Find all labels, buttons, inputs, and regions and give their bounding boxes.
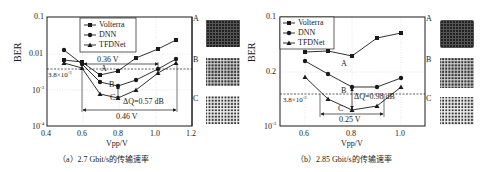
panel-b-xlabel: Vpp/V bbox=[341, 139, 363, 148]
panel-a-xtick-1: 0.6 bbox=[77, 129, 87, 138]
panel-a-threshold-label: 3.8×10-3 bbox=[48, 70, 71, 79]
panel-b-ytick-0: 0.1 bbox=[266, 12, 276, 21]
panel-a-tfdnet-markers bbox=[62, 61, 179, 101]
panel-a-dq-label: ΔQ=0.57 dB bbox=[123, 97, 164, 106]
constellation-b-C bbox=[440, 97, 474, 125]
panel-a-caption: （a）2.7 Gbit/s的传输速率 bbox=[58, 153, 149, 164]
constellation-b-B bbox=[440, 58, 474, 88]
panel-b-side-B: B bbox=[426, 55, 431, 64]
panel-a-ytick-2: 10-3 bbox=[32, 85, 44, 95]
panel-a-xlabel: Vpp/V bbox=[106, 139, 128, 148]
panel-a-legend-volterra: Volterra bbox=[99, 20, 125, 29]
panel-b-threshold-label: 3.8×10-3 bbox=[283, 95, 306, 104]
panel-a-point-C: C bbox=[110, 93, 115, 102]
panel-a-xtick-4: 1.2 bbox=[186, 129, 196, 138]
panel-b-series-dnn bbox=[305, 61, 401, 87]
panel-b-legend-dnn: DNN bbox=[298, 28, 315, 37]
panel-b-point-C: C bbox=[338, 104, 343, 113]
panel-b-constellations bbox=[440, 20, 474, 125]
panel-b-ytick-2: 10-3 bbox=[264, 121, 276, 131]
panel-b-range-025-label: 0.25 V bbox=[339, 115, 361, 124]
panel-b-ylabel: BER bbox=[246, 43, 257, 62]
constellation-a-C bbox=[206, 96, 240, 124]
panel-b-xtick-1: 0.8 bbox=[346, 129, 356, 138]
panel-b-ytick-1: 0.2 bbox=[266, 67, 276, 76]
panel-a-range-046-label: 0.46 V bbox=[116, 112, 138, 121]
panel-a-side-C: C bbox=[193, 94, 198, 103]
panel-a-point-A: A bbox=[101, 64, 107, 73]
panel-b-xtick-0: 0.6 bbox=[299, 129, 309, 138]
panel-a-legend-tfdnet: TFDNet bbox=[99, 40, 126, 49]
panel-b-caption: （b）2.85 Gbit/s的传输速率 bbox=[296, 153, 392, 164]
panel-a-xtick-2: 0.8 bbox=[113, 129, 123, 138]
panel-a-side-A: A bbox=[193, 14, 199, 23]
panel-a-xtick-0: 0.4 bbox=[41, 129, 51, 138]
panel-a-ytick-0: 0.1 bbox=[34, 12, 44, 21]
panel-a-range-036-label: 0.36 V bbox=[97, 55, 119, 64]
panel-b-side-C: C bbox=[426, 94, 431, 103]
panel-b-legend-volterra: Volterra bbox=[298, 18, 324, 27]
panel-a-legend-dnn: DNN bbox=[99, 30, 116, 39]
constellation-a-A bbox=[206, 20, 240, 47]
panel-a-constellations bbox=[206, 20, 240, 124]
panel-a-point-B: B bbox=[109, 80, 114, 89]
panel-b-point-A: A bbox=[341, 59, 347, 68]
panel-a-ylabel: BER bbox=[12, 43, 23, 62]
panel-a-ytick-1: 0.01 bbox=[29, 49, 43, 58]
panel-b-legend-tfdnet: TFDNet bbox=[298, 38, 325, 47]
panel-b-dq-label: ΔQ=0.98 dB bbox=[354, 92, 395, 101]
constellation-a-B bbox=[206, 58, 240, 86]
constellation-b-A bbox=[440, 20, 474, 48]
panel-b-side-A: A bbox=[426, 14, 432, 23]
panel-a-xtick-3: 1.0 bbox=[150, 129, 160, 138]
panel-b-xtick-2: 1.0 bbox=[395, 129, 405, 138]
panel-b-point-B: B bbox=[341, 86, 346, 95]
figure bbox=[0, 0, 488, 172]
panel-b-dnn-markers bbox=[303, 59, 403, 89]
panel-a-side-B: B bbox=[193, 55, 198, 64]
